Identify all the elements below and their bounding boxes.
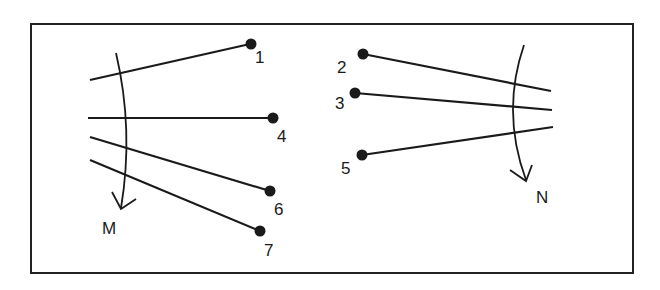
arc-arrow-n	[513, 45, 526, 180]
label-point-6: 6	[274, 200, 283, 219]
point-3-dot	[350, 88, 361, 99]
point-5-dot	[357, 150, 368, 161]
diagram-frame	[31, 24, 633, 273]
label-point-5: 5	[341, 159, 350, 178]
right-ray-group	[355, 54, 553, 155]
arc-arrow-m	[116, 53, 126, 208]
point-7-dot	[255, 226, 266, 237]
label-point-2: 2	[337, 58, 346, 77]
diagram-canvas: 1 4 6 7 M 2 3 5 N	[0, 0, 660, 290]
label-point-7: 7	[264, 241, 273, 260]
point-2-dot	[358, 49, 369, 60]
left-ray-group	[88, 44, 273, 231]
ray-6	[90, 137, 270, 191]
point-4-dot	[268, 113, 279, 124]
ray-1	[90, 44, 250, 80]
label-arrow-m: M	[102, 219, 116, 238]
label-point-1: 1	[255, 48, 264, 67]
right-dots	[350, 49, 369, 161]
arrowhead-m-icon	[112, 192, 136, 209]
ray-3	[355, 93, 552, 110]
label-point-3: 3	[335, 94, 344, 113]
ray-5	[362, 127, 553, 155]
ray-2	[363, 54, 551, 91]
label-point-4: 4	[277, 127, 286, 146]
label-arrow-n: N	[536, 188, 548, 207]
point-6-dot	[265, 186, 276, 197]
